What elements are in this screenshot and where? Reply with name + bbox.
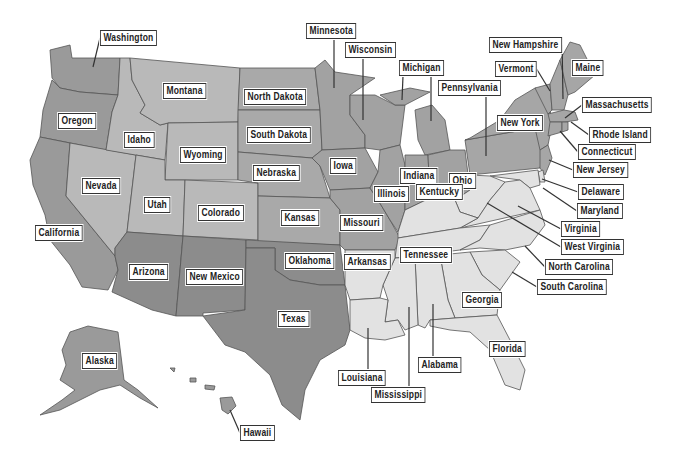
label-rhode-island: Rhode Island [589,127,651,143]
label-mississippi: Mississippi [371,387,425,403]
label-georgia: Georgia [462,292,502,308]
label-california: California [35,225,83,241]
label-arizona: Arizona [129,264,168,280]
label-idaho: Idaho [124,132,154,148]
label-oklahoma: Oklahoma [285,253,334,269]
label-utah: Utah [144,197,170,213]
us-map: WashingtonOregonCaliforniaNevadaIdahoMon… [0,0,684,460]
label-washington: Washington [100,30,157,46]
state-rhode-island[interactable] [562,122,568,132]
leader-line-north-carolina [525,246,545,267]
label-hawaii: Hawaii [240,425,275,441]
label-nebraska: Nebraska [253,165,299,181]
leader-line-delaware [542,179,578,192]
label-alabama: Alabama [418,357,461,373]
leader-line-maryland [543,188,577,211]
state-connecticut[interactable] [548,122,562,136]
label-new-hampshire: New Hampshire [489,37,562,53]
label-new-york: New York [497,115,543,131]
label-arkansas: Arkansas [344,254,390,270]
label-wyoming: Wyoming [180,147,226,163]
state-washington[interactable] [50,45,120,95]
label-north-dakota: North Dakota [244,89,306,105]
label-wisconsin: Wisconsin [345,42,396,58]
label-montana: Montana [163,83,206,99]
label-north-carolina: North Carolina [545,259,613,275]
label-illinois: Illinois [374,186,409,202]
label-texas: Texas [278,311,309,327]
label-new-mexico: New Mexico [186,269,243,285]
label-louisiana: Louisiana [338,370,386,386]
label-south-dakota: South Dakota [247,127,311,143]
label-alaska: Alaska [82,353,117,369]
label-virginia: Virginia [561,221,600,237]
label-west-virginia: West Virginia [561,239,624,255]
label-kansas: Kansas [281,210,319,226]
label-south-carolina: South Carolina [537,279,607,295]
label-massachusetts: Massachusetts [582,97,652,113]
label-new-jersey: New Jersey [573,162,628,178]
label-vermont: Vermont [495,61,537,77]
label-missouri: Missouri [340,215,383,231]
label-maryland: Maryland [577,203,622,219]
label-tennessee: Tennessee [400,247,452,263]
label-oregon: Oregon [58,113,96,129]
label-minnesota: Minnesota [306,23,356,39]
label-maine: Maine [572,60,604,76]
leader-line-rhode-island [571,122,589,135]
label-connecticut: Connecticut [578,144,636,160]
label-iowa: Iowa [330,158,356,174]
leader-line-hawaii [230,410,240,433]
label-nevada: Nevada [82,178,120,194]
label-kentucky: Kentucky [416,184,462,200]
label-indiana: Indiana [400,168,438,184]
leader-line-new-jersey [549,160,573,170]
state-hawaii[interactable] [170,368,236,414]
label-colorado: Colorado [198,205,243,221]
label-pennsylvania: Pennsylvania [438,80,501,96]
label-florida: Florida [489,341,525,357]
leader-line-south-carolina [512,272,537,287]
label-delaware: Delaware [578,184,624,200]
leader-line-connecticut [560,131,578,152]
label-michigan: Michigan [399,60,444,76]
state-alaska[interactable] [40,326,158,415]
